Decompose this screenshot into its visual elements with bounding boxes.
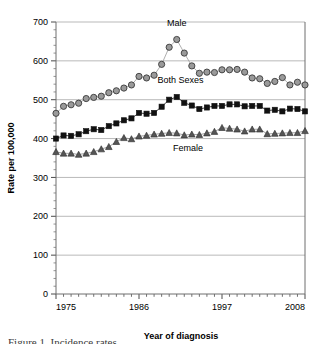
marker-male-1975 bbox=[53, 110, 59, 116]
marker-male-1980 bbox=[91, 94, 97, 100]
marker-male-2007 bbox=[294, 79, 300, 85]
marker-both-sexes-1975 bbox=[53, 136, 58, 141]
marker-male-2006 bbox=[287, 82, 293, 88]
marker-male-1981 bbox=[98, 93, 104, 99]
marker-both-sexes-1985 bbox=[129, 116, 134, 121]
marker-both-sexes-1993 bbox=[189, 103, 194, 108]
y-tick-label-100: 100 bbox=[33, 250, 48, 260]
marker-both-sexes-2007 bbox=[295, 106, 300, 111]
marker-male-1993 bbox=[189, 63, 195, 69]
marker-both-sexes-1989 bbox=[159, 104, 164, 109]
marker-both-sexes-1979 bbox=[84, 129, 89, 134]
marker-both-sexes-1987 bbox=[144, 111, 149, 116]
marker-both-sexes-1988 bbox=[151, 110, 156, 115]
marker-both-sexes-1981 bbox=[99, 127, 104, 132]
marker-male-2000 bbox=[242, 69, 248, 75]
marker-male-2008 bbox=[302, 82, 308, 88]
marker-male-1989 bbox=[159, 61, 165, 67]
male-series-label: Male bbox=[167, 18, 187, 28]
marker-male-2004 bbox=[272, 78, 278, 84]
marker-both-sexes-1986 bbox=[136, 110, 141, 115]
y-tick-label-500: 500 bbox=[33, 95, 48, 105]
marker-male-1983 bbox=[113, 88, 119, 94]
marker-male-1991 bbox=[174, 36, 180, 42]
incidence-rate-line-chart: 0100200300400500600700 1975198619972008 … bbox=[0, 0, 331, 344]
marker-male-1988 bbox=[151, 72, 157, 78]
marker-both-sexes-1982 bbox=[106, 124, 111, 129]
y-axis-title: Rate per 100,000 bbox=[6, 122, 16, 193]
marker-both-sexes-2000 bbox=[242, 104, 247, 109]
marker-male-1995 bbox=[204, 69, 210, 75]
x-tick-label-1986: 1986 bbox=[129, 302, 149, 312]
marker-male-1978 bbox=[76, 100, 82, 106]
marker-male-2005 bbox=[279, 74, 285, 80]
marker-male-1976 bbox=[60, 103, 66, 109]
marker-male-1990 bbox=[166, 44, 172, 50]
marker-both-sexes-1997 bbox=[219, 103, 224, 108]
marker-both-sexes-1984 bbox=[121, 118, 126, 123]
marker-both-sexes-2008 bbox=[302, 109, 307, 114]
y-tick-label-600: 600 bbox=[33, 56, 48, 66]
y-tick-label-200: 200 bbox=[33, 211, 48, 221]
x-tick-label-1997: 1997 bbox=[212, 302, 232, 312]
marker-both-sexes-2001 bbox=[250, 103, 255, 108]
marker-both-sexes-1996 bbox=[212, 103, 217, 108]
marker-both-sexes-1990 bbox=[167, 97, 172, 102]
marker-both-sexes-1992 bbox=[182, 100, 187, 105]
marker-male-1977 bbox=[68, 102, 74, 108]
x-tick-label-2008: 2008 bbox=[285, 302, 305, 312]
marker-male-1982 bbox=[106, 90, 112, 96]
marker-male-2003 bbox=[264, 80, 270, 86]
marker-male-1992 bbox=[181, 50, 187, 56]
marker-male-2002 bbox=[257, 76, 263, 82]
marker-both-sexes-1995 bbox=[204, 105, 209, 110]
y-tick-label-0: 0 bbox=[43, 289, 48, 299]
marker-both-sexes-2006 bbox=[287, 106, 292, 111]
marker-both-sexes-1998 bbox=[227, 102, 232, 107]
marker-male-1997 bbox=[219, 67, 225, 73]
both-sexes-series-label: Both Sexes bbox=[157, 75, 204, 85]
marker-both-sexes-1991 bbox=[174, 94, 179, 99]
marker-both-sexes-1994 bbox=[197, 106, 202, 111]
marker-male-1999 bbox=[234, 66, 240, 72]
marker-male-2001 bbox=[249, 75, 255, 81]
marker-both-sexes-2002 bbox=[257, 103, 262, 108]
x-tick-label-1975: 1975 bbox=[56, 302, 76, 312]
marker-both-sexes-1976 bbox=[61, 133, 66, 138]
marker-both-sexes-2005 bbox=[280, 109, 285, 114]
marker-both-sexes-1980 bbox=[91, 127, 96, 132]
female-series-label: Female bbox=[173, 143, 203, 153]
marker-male-1998 bbox=[226, 67, 232, 73]
y-tick-label-300: 300 bbox=[33, 173, 48, 183]
marker-male-1986 bbox=[136, 73, 142, 79]
figure-caption: Figure 1. Incidence rates bbox=[8, 336, 308, 344]
marker-male-1985 bbox=[128, 82, 134, 88]
marker-both-sexes-1977 bbox=[68, 133, 73, 138]
marker-male-1987 bbox=[143, 75, 149, 81]
marker-both-sexes-2003 bbox=[265, 108, 270, 113]
marker-both-sexes-1978 bbox=[76, 132, 81, 137]
y-tick-label-400: 400 bbox=[33, 134, 48, 144]
marker-male-1996 bbox=[211, 69, 217, 75]
figure-container: 0100200300400500600700 1975198619972008 … bbox=[0, 0, 331, 344]
marker-male-1984 bbox=[121, 85, 127, 91]
y-tick-label-700: 700 bbox=[33, 17, 48, 27]
marker-both-sexes-1999 bbox=[234, 102, 239, 107]
chart-background bbox=[0, 0, 331, 344]
marker-male-1979 bbox=[83, 95, 89, 101]
marker-both-sexes-1983 bbox=[114, 121, 119, 126]
marker-both-sexes-2004 bbox=[272, 107, 277, 112]
